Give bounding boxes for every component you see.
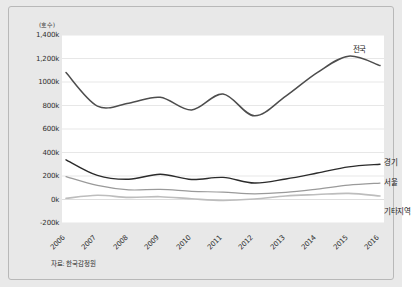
x-tick-label: 2015: [332, 234, 350, 252]
source-note: 자료: 한국감정원: [51, 258, 95, 268]
x-tick-label: 2006: [49, 234, 67, 252]
y-tick-label: 200k: [15, 172, 59, 180]
series-label-경기: 경기: [384, 156, 397, 167]
x-tick-label: 2016: [363, 234, 381, 252]
x-tick-label: 2008: [112, 234, 130, 252]
y-tick-label: 800k: [15, 102, 59, 110]
series-label-서울: 서울: [384, 176, 397, 187]
x-tick-label: 2009: [143, 234, 161, 252]
y-tick-label: 1000k: [15, 78, 59, 86]
y-tick-label: 400k: [15, 149, 59, 157]
x-tick-label: 2014: [300, 234, 318, 252]
series-label-전국: 전국: [353, 43, 366, 54]
plot-area: [62, 35, 384, 223]
series-label-기타지역: 기타지역: [384, 205, 411, 216]
chart-card: (호수) 1,400k1,200k1000k800k600k400k200k0k…: [8, 6, 394, 280]
y-tick-label: 0k: [15, 196, 59, 204]
x-axis-tick-labels: 2006200720082009201020112012201320142015…: [62, 223, 384, 267]
x-tick-label: 2011: [206, 234, 224, 252]
x-tick-label: 2007: [80, 234, 98, 252]
x-tick-label: 2010: [175, 234, 193, 252]
y-tick-label: 1,400k: [15, 31, 59, 39]
y-tick-label: -200k: [15, 219, 59, 227]
y-tick-label: 1,200k: [15, 55, 59, 63]
y-axis-unit-label: (호수): [39, 20, 55, 29]
x-tick-label: 2013: [269, 234, 287, 252]
y-tick-label: 600k: [15, 125, 59, 133]
chart-series-lines: [62, 35, 384, 223]
x-tick-label: 2012: [237, 234, 255, 252]
y-axis-tick-labels: 1,400k1,200k1000k800k600k400k200k0k-200k: [13, 35, 59, 223]
